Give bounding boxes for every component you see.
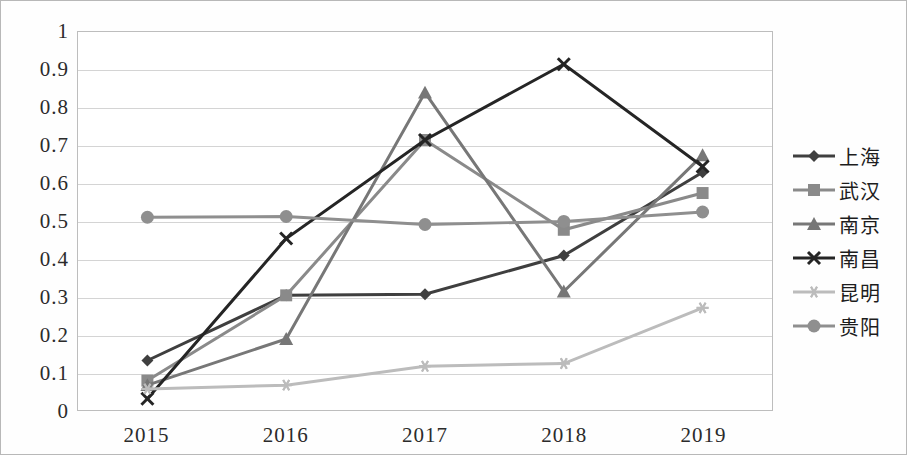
diamond-marker-icon (419, 288, 431, 300)
series-4 (141, 303, 708, 394)
diamond-marker-icon (791, 145, 837, 167)
series-layer (78, 32, 772, 411)
circle-marker-icon (280, 210, 293, 223)
y-tick-label: 1 (1, 19, 69, 44)
x-marker-icon (558, 58, 570, 70)
asterisk-marker-icon (419, 361, 431, 371)
series-2 (140, 86, 709, 391)
series-line (147, 64, 702, 399)
asterisk-marker-icon (697, 303, 709, 313)
asterisk-marker-icon (808, 287, 820, 297)
y-tick-label: 0.6 (1, 171, 69, 196)
legend-label: 贵阳 (837, 312, 881, 341)
asterisk-marker-icon (791, 281, 837, 303)
legend-item-2[interactable]: 南京 (791, 207, 903, 241)
asterisk-marker-icon (280, 380, 292, 390)
legend-item-5[interactable]: 贵阳 (791, 309, 903, 343)
square-marker-icon (280, 289, 292, 301)
x-marker-icon (141, 393, 153, 405)
circle-marker-icon (791, 315, 837, 337)
series-5 (141, 205, 709, 230)
series-line (147, 140, 702, 381)
line-chart-figure: 10.90.80.70.60.50.40.30.20.10 2015201620… (0, 0, 907, 455)
legend-item-0[interactable]: 上海 (791, 139, 903, 173)
circle-marker-icon (557, 215, 570, 228)
y-tick-label: 0 (1, 399, 69, 424)
x-tick-label: 2016 (263, 423, 309, 448)
series-0 (141, 166, 708, 366)
square-marker-icon (697, 187, 709, 199)
legend-label: 南京 (837, 210, 881, 239)
diamond-marker-icon (141, 355, 153, 367)
x-marker-icon (791, 247, 837, 269)
x-marker-icon (280, 233, 292, 245)
x-tick-label: 2019 (680, 423, 726, 448)
chart-legend: 上海武汉南京南昌昆明贵阳 (791, 139, 903, 343)
plot-area (77, 31, 773, 411)
y-tick-label: 0.5 (1, 209, 69, 234)
legend-item-3[interactable]: 南昌 (791, 241, 903, 275)
y-tick-label: 0.4 (1, 247, 69, 272)
triangle-marker-icon (791, 213, 837, 235)
circle-marker-icon (808, 320, 821, 333)
y-tick-label: 0.7 (1, 133, 69, 158)
asterisk-marker-icon (558, 358, 570, 368)
triangle-marker-icon (418, 86, 432, 99)
x-axis: 20152016201720182019 (77, 417, 773, 455)
legend-label: 昆明 (837, 278, 881, 307)
legend-label: 南昌 (837, 244, 881, 273)
series-1 (141, 134, 708, 387)
circle-marker-icon (419, 218, 432, 231)
circle-marker-icon (141, 211, 154, 224)
legend-item-1[interactable]: 武汉 (791, 173, 903, 207)
diamond-marker-icon (808, 150, 820, 162)
triangle-marker-icon (696, 148, 710, 161)
y-tick-label: 0.1 (1, 361, 69, 386)
square-marker-icon (791, 179, 837, 201)
y-axis: 10.90.80.70.60.50.40.30.20.10 (1, 31, 69, 411)
y-tick-label: 0.8 (1, 95, 69, 120)
y-tick-label: 0.2 (1, 323, 69, 348)
x-tick-label: 2015 (124, 423, 170, 448)
y-tick-label: 0.3 (1, 285, 69, 310)
legend-label: 武汉 (837, 176, 881, 205)
square-marker-icon (808, 184, 820, 196)
circle-marker-icon (696, 205, 709, 218)
legend-item-4[interactable]: 昆明 (791, 275, 903, 309)
x-tick-label: 2017 (402, 423, 448, 448)
triangle-marker-icon (279, 332, 293, 345)
x-tick-label: 2018 (541, 423, 587, 448)
series-line (147, 172, 702, 360)
y-tick-label: 0.9 (1, 57, 69, 82)
legend-label: 上海 (837, 142, 881, 171)
